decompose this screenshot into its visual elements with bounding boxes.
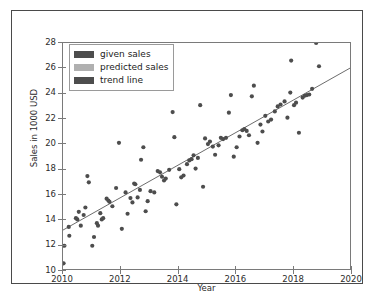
scatter-point (160, 175, 164, 179)
scatter-point (216, 143, 220, 147)
x-tick-mark-inner (235, 266, 236, 270)
scatter-point (130, 200, 134, 204)
scatter-point (227, 111, 231, 115)
y-tick-label: 12 (14, 240, 56, 249)
legend-item[interactable]: trend line (74, 74, 168, 87)
scatter-point (172, 135, 176, 139)
scatter-point (196, 156, 200, 160)
y-tick-mark-inner (62, 118, 66, 119)
scatter-point (136, 195, 140, 199)
y-tick-mark-inner (62, 219, 66, 220)
scatter-point (128, 196, 132, 200)
scatter-point (191, 153, 195, 157)
scatter-point (213, 153, 217, 157)
y-tick-mark-inner (62, 42, 66, 43)
scatter-point (85, 174, 89, 178)
legend-label: predicted sales (100, 63, 168, 72)
scatter-point (125, 212, 129, 216)
scatter-point (117, 141, 121, 145)
scatter-point (181, 173, 185, 177)
scatter-point (237, 134, 241, 138)
x-tick-mark-inner (293, 266, 294, 270)
scatter-point (194, 166, 198, 170)
scatter-point (317, 64, 321, 68)
legend-label: given sales (100, 50, 151, 59)
legend-item[interactable]: given sales (74, 48, 168, 61)
x-tick-mark-inner (178, 266, 179, 270)
scatter-point (250, 94, 254, 98)
scatter-point (171, 110, 175, 114)
scatter-point (138, 188, 142, 192)
x-tick-mark-inner (62, 266, 63, 270)
scatter-point (201, 185, 205, 189)
x-axis-label: Year (62, 283, 351, 293)
scatter-point (232, 155, 236, 159)
scatter-point (307, 92, 311, 96)
y-tick-label: 14 (14, 215, 56, 224)
y-tick-label: 16 (14, 190, 56, 199)
scatter-point (256, 141, 260, 145)
scatter-point (273, 109, 277, 113)
scatter-point (158, 170, 162, 174)
scatter-point (285, 116, 289, 120)
scatter-point (98, 211, 102, 215)
scatter-point (164, 177, 168, 181)
scatter-point (148, 189, 152, 193)
scatter-point (263, 114, 267, 118)
scatter-point (114, 186, 118, 190)
legend-swatch-line (74, 77, 94, 84)
y-tick-mark-inner (62, 169, 66, 170)
scatter-point (294, 101, 298, 105)
scatter-point (297, 131, 301, 135)
scatter-point (235, 145, 239, 149)
scatter-point (101, 216, 105, 220)
scatter-point (144, 209, 148, 213)
scatter-point (123, 190, 127, 194)
scatter-point (278, 102, 282, 106)
scatter-point (211, 145, 215, 149)
scatter-point (177, 167, 181, 171)
scatter-point (141, 145, 145, 149)
scatter-point (224, 136, 228, 140)
chart-legend[interactable]: given salespredicted salestrend line (69, 44, 174, 91)
y-tick-label: 28 (14, 38, 56, 47)
scatter-point (189, 157, 193, 161)
scatter-point (133, 182, 137, 186)
scatter-point (110, 204, 114, 208)
scatter-point (174, 202, 178, 206)
scatter-point (198, 103, 202, 107)
scatter-point (185, 162, 189, 166)
scatter-point (310, 87, 314, 91)
chart-figure: 10121416182022242628 2010201220142016201… (0, 0, 374, 307)
scatter-point (82, 213, 86, 217)
scatter-point (208, 139, 212, 143)
y-tick-mark-inner (62, 245, 66, 246)
scatter-point (247, 133, 251, 137)
scatter-point (96, 224, 100, 228)
scatter-point (289, 58, 293, 62)
scatter-point (87, 180, 91, 184)
scatter-point (288, 91, 292, 95)
scatter-point (107, 200, 111, 204)
y-tick-mark-inner (62, 93, 66, 94)
y-tick-mark-inner (62, 143, 66, 144)
scatter-point (79, 224, 83, 228)
scatter-point (152, 190, 156, 194)
scatter-point (245, 129, 249, 133)
scatter-point (92, 235, 96, 239)
scatter-point (67, 225, 71, 229)
y-tick-mark-inner (62, 194, 66, 195)
scatter-point (258, 123, 262, 127)
scatter-point (314, 43, 318, 45)
y-tick-mark-inner (62, 67, 66, 68)
y-axis-label: Sales in 1000 USD (29, 68, 39, 188)
scatter-point (83, 205, 87, 209)
scatter-point (67, 234, 71, 238)
scatter-point (75, 217, 79, 221)
legend-label: trend line (100, 76, 143, 85)
x-tick-mark-inner (120, 266, 121, 270)
legend-item[interactable]: predicted sales (74, 61, 168, 74)
scatter-point (282, 99, 286, 103)
legend-swatch-circle (74, 64, 94, 71)
trend-line (63, 68, 350, 230)
